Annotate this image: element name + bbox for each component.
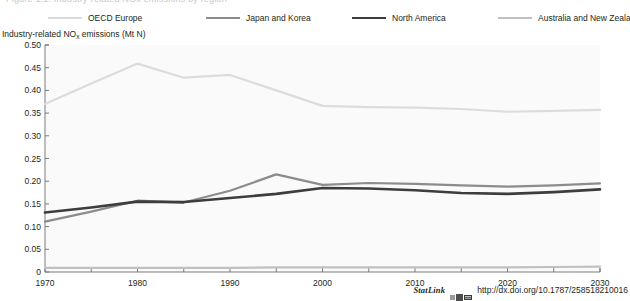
figure-container: Figure 1.1. Industry-related NOx emissio… <box>0 0 630 301</box>
statlink-excel-icon-svg <box>450 294 472 301</box>
series-line-japan-and-korea <box>45 174 600 221</box>
chart-canvas <box>0 0 630 301</box>
statlink-label: StatLink <box>413 285 445 295</box>
series-line-australia-and-new-zealand <box>45 267 600 268</box>
statlink-url[interactable]: http://dx.doi.org/10.1787/258518210016 <box>477 285 628 295</box>
statlink-excel-icon[interactable] <box>450 287 472 294</box>
statlink-footer: StatLink http://dx.doi.org/10.1787/25851… <box>413 285 628 295</box>
series-line-north-america <box>45 188 600 213</box>
series-line-oecd-europe <box>45 64 600 112</box>
